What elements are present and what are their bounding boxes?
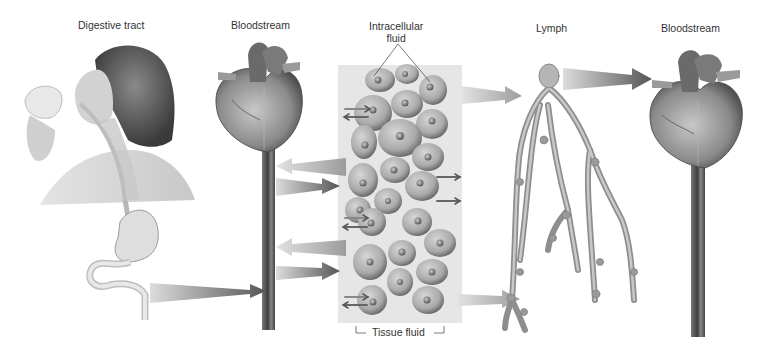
blood-vessel-left [262,140,275,330]
woman-drinking-figure [25,46,195,205]
arrow-blood-to-tissue-1 [276,178,340,196]
arrow-digestive-to-blood [150,283,266,303]
lymph-vessels [505,64,638,330]
blood-vessel-right [691,165,705,337]
arrow-tissue-to-blood-1 [276,158,346,176]
fluid-flow-diagram [0,0,760,355]
arrow-lymph-to-blood [563,68,652,90]
arrow-tissue-to-lymph-1 [462,86,522,104]
drinking-glass-icon [25,86,62,118]
tissue-fluid-bracket [356,326,444,333]
arrow-tissue-to-blood-2 [276,238,346,256]
heart-right [650,50,742,337]
arrow-blood-to-tissue-2 [276,262,340,280]
tissue-panel [338,44,462,333]
